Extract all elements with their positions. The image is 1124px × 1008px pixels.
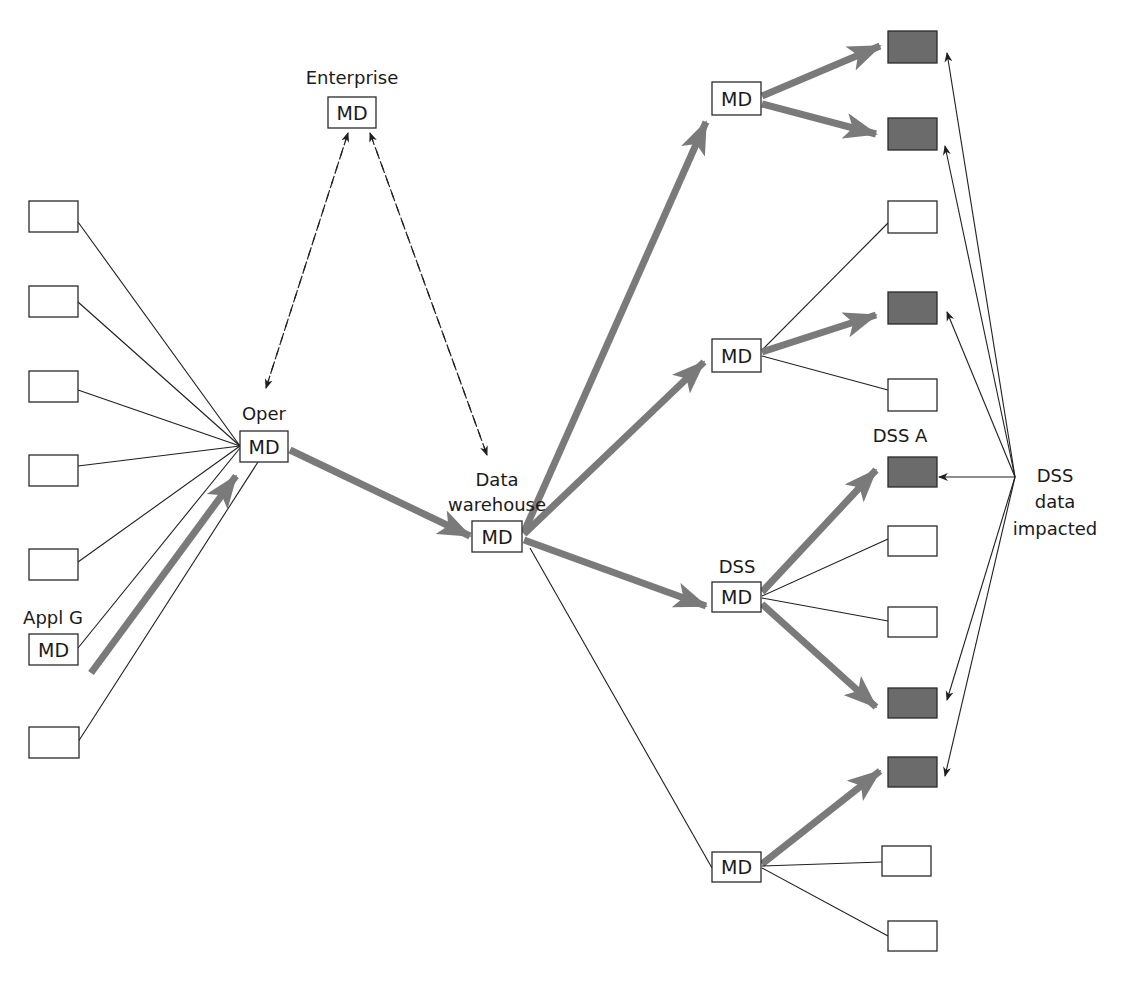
caption-enterprise: Enterprise xyxy=(306,67,399,88)
oper-to-warehouse-arrow xyxy=(290,450,470,536)
md-node-dss: MD xyxy=(712,582,761,612)
impacted-pointer-arrows xyxy=(939,53,1015,776)
appl-g-to-oper-arrow xyxy=(91,476,236,673)
caption-dss: DSS xyxy=(719,556,756,577)
impacted-dss-box xyxy=(888,757,937,787)
source-boxes xyxy=(29,201,79,758)
dss-data-box xyxy=(888,201,937,233)
md-label: MD xyxy=(481,526,512,548)
md-node-md-mid: MD xyxy=(712,339,761,372)
dss-data-box xyxy=(882,846,931,876)
md-label: MD xyxy=(721,345,752,367)
caption-dss-a: DSS A xyxy=(873,425,928,446)
impacted-dss-box xyxy=(888,688,937,718)
caption-appl-g: Appl G xyxy=(23,607,83,628)
source-data-box xyxy=(29,371,78,402)
md-node-oper: MD xyxy=(240,431,288,462)
source-data-box xyxy=(29,549,78,580)
impacted-dss-box xyxy=(888,292,937,324)
target-boxes xyxy=(882,31,937,951)
impacted-dss-box xyxy=(888,118,937,150)
md-label: MD xyxy=(721,88,752,110)
md-node-appl-g: MD xyxy=(29,634,78,665)
impacted-dss-box xyxy=(888,457,937,487)
md-top-arrows xyxy=(762,46,880,134)
md-node-enterprise: MD xyxy=(328,97,376,128)
dss-data-box xyxy=(888,526,937,556)
caption-dss-impacted-line2: data xyxy=(1035,491,1076,512)
caption-data-warehouse-line2: warehouse xyxy=(448,494,546,515)
source-data-box xyxy=(29,455,78,486)
dss-data-box xyxy=(888,379,937,411)
md-label: MD xyxy=(38,639,69,661)
source-data-box xyxy=(29,727,79,758)
impacted-dss-box xyxy=(888,31,937,63)
md-label: MD xyxy=(721,856,752,878)
md-node-md-bottom: MD xyxy=(712,852,761,882)
dss-data-box xyxy=(888,921,937,951)
source-data-box xyxy=(29,201,78,232)
md-label: MD xyxy=(336,102,367,124)
md-bottom-connections xyxy=(762,771,888,936)
caption-dss-impacted-line3: impacted xyxy=(1013,518,1097,539)
md-mid-connections xyxy=(762,223,888,390)
metadata-impact-diagram: MDMDMDMDMDMDMDMD Enterprise Oper Appl G … xyxy=(0,0,1124,1008)
dss-data-box xyxy=(888,607,937,637)
enterprise-dashed-arrows xyxy=(266,133,487,455)
dss-md-connections xyxy=(762,470,888,707)
md-label: MD xyxy=(248,436,279,458)
source-data-box xyxy=(29,286,78,317)
md-node-warehouse: MD xyxy=(472,521,522,552)
warehouse-to-department-arrows xyxy=(524,122,706,606)
md-node-md-top: MD xyxy=(712,82,761,115)
caption-dss-impacted-line1: DSS xyxy=(1037,465,1074,486)
caption-data-warehouse-line1: Data xyxy=(476,469,519,490)
caption-oper: Oper xyxy=(242,403,287,424)
md-label: MD xyxy=(721,586,752,608)
